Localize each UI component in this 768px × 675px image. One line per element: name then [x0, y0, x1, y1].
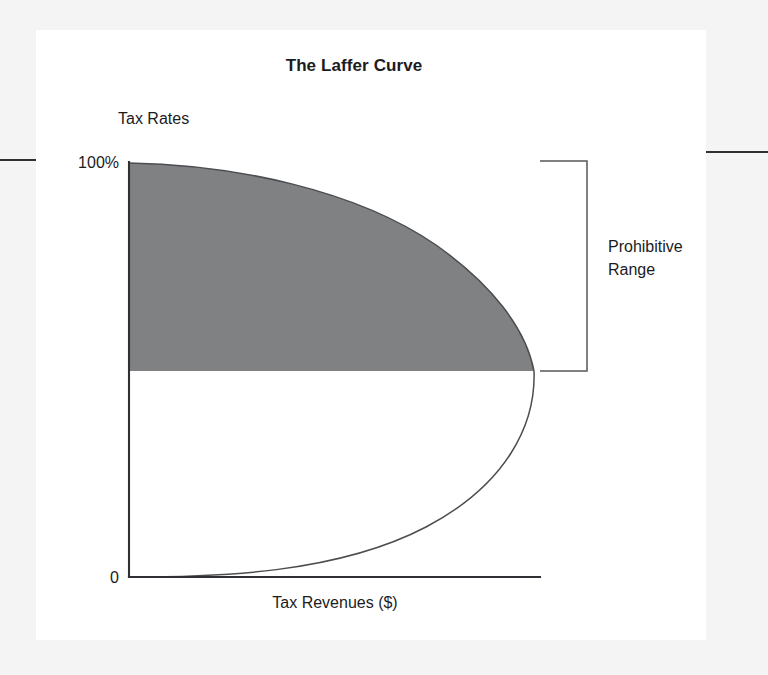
y-tick-label-top: 100% — [78, 154, 119, 171]
y-axis-label: Tax Rates — [118, 110, 189, 127]
y-tick-label-bottom: 0 — [110, 569, 119, 586]
prohibitive-range-label-line2: Range — [608, 261, 655, 278]
laffer-curve-lower-branch — [129, 371, 534, 577]
prohibitive-range-bracket — [540, 161, 587, 371]
page-rule-left — [0, 159, 40, 161]
figure-root: The Laffer Curve Tax Rates 100% 0 Tax Re… — [0, 0, 768, 675]
x-axis-label: Tax Revenues ($) — [272, 594, 397, 611]
page-rule-right — [696, 151, 768, 153]
prohibitive-range-shaded-area — [129, 163, 534, 371]
laffer-curve-plot: Tax Rates 100% 0 Tax Revenues ($) Prohib… — [36, 30, 706, 640]
figure-card: The Laffer Curve Tax Rates 100% 0 Tax Re… — [36, 30, 706, 640]
prohibitive-range-label-line1: Prohibitive — [608, 238, 683, 255]
